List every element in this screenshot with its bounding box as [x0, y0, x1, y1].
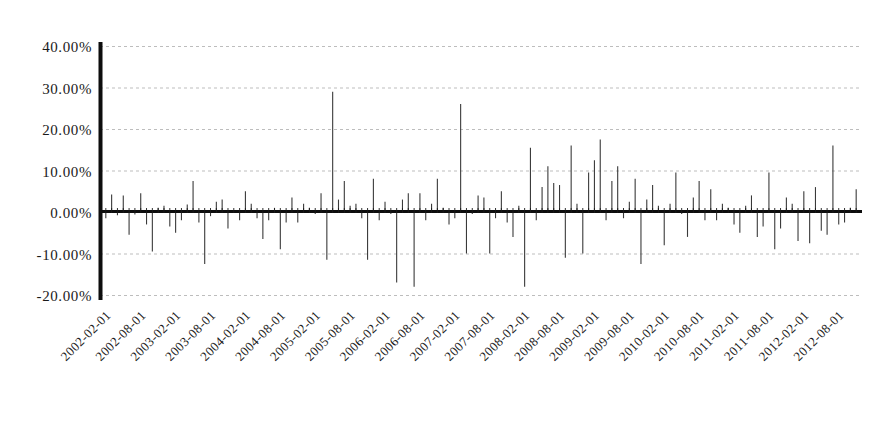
y-axis-tick-label: 20.00% — [42, 122, 92, 138]
chart-canvas: 40.00%30.00%20.00%10.00%0.00%-10.00%-20.… — [0, 0, 886, 438]
y-axis-tick-label: 40.00% — [42, 39, 92, 55]
y-axis-tick-label: 30.00% — [42, 81, 92, 97]
bar-series — [106, 92, 856, 287]
y-axis-labels: 40.00%30.00%20.00%10.00%0.00%-10.00%-20.… — [37, 39, 92, 304]
y-axis-tick-label: -10.00% — [37, 247, 92, 263]
returns-bar-chart: 40.00%30.00%20.00%10.00%0.00%-10.00%-20.… — [0, 0, 886, 438]
gridlines — [100, 47, 862, 296]
y-axis-tick-label: 10.00% — [42, 164, 92, 180]
y-axis-tick-label: 0.00% — [50, 205, 92, 221]
y-axis-tick-label: -20.00% — [37, 288, 92, 304]
x-axis-labels: 2002-02-012002-08-012003-02-012003-08-01… — [57, 308, 846, 364]
